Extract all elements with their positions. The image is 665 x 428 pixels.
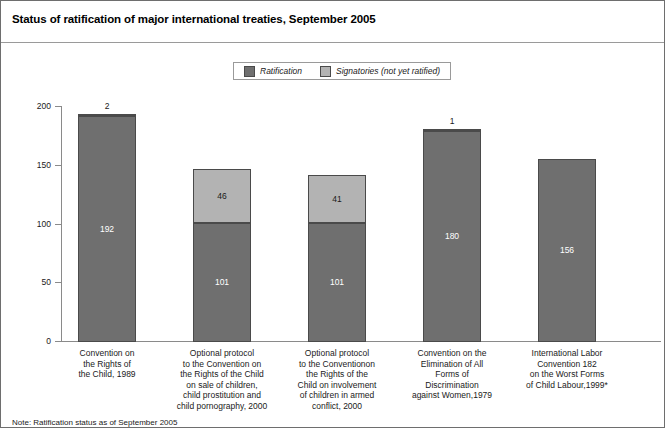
y-tick-label-50: 50 bbox=[19, 277, 51, 287]
bar-group[interactable]: 10146 bbox=[193, 169, 251, 342]
x-axis-label-line: child prostitution and bbox=[166, 390, 278, 401]
bar-segment-ratification[interactable]: 180 bbox=[423, 131, 481, 343]
x-axis-label-line: to the Convention on bbox=[166, 359, 278, 370]
bar-segment-ratification[interactable]: 101 bbox=[193, 223, 251, 342]
legend-item-ratification: Ratification bbox=[244, 66, 302, 77]
x-axis-label-line: the Rights of the bbox=[281, 369, 393, 380]
bar-value-ratification: 192 bbox=[100, 225, 114, 234]
bar-segment-signatories[interactable] bbox=[78, 114, 136, 116]
x-axis-label-line: Forms of bbox=[396, 369, 508, 380]
legend-swatch-signatories bbox=[320, 66, 331, 77]
legend-label-ratification: Ratification bbox=[260, 66, 302, 76]
plot-area: 192210146101411801156 bbox=[61, 106, 661, 342]
bar-value-signatories: 1 bbox=[423, 116, 481, 126]
x-axis-label-line: Convention on bbox=[51, 348, 163, 359]
bar-value-ratification: 180 bbox=[445, 232, 459, 241]
bar-value-ratification: 101 bbox=[330, 278, 344, 287]
y-tick-label-0: 0 bbox=[19, 336, 51, 346]
x-axis-label-line: of Child Labour,1999* bbox=[511, 380, 623, 391]
legend-item-signatories: Signatories (not yet ratified) bbox=[320, 66, 440, 77]
x-axis-label-line: the Rights of bbox=[51, 359, 163, 370]
y-tick-label-200: 200 bbox=[19, 101, 51, 111]
title-bar: Status of ratification of major internat… bbox=[1, 1, 664, 43]
x-axis-label-line: Optional protocol bbox=[166, 348, 278, 359]
legend-label-signatories: Signatories (not yet ratified) bbox=[336, 66, 440, 76]
x-axis-label-line: against Women,1979 bbox=[396, 390, 508, 401]
chart-legend: Ratification Signatories (not yet ratifi… bbox=[233, 62, 451, 80]
x-axis-label: Convention on theElimination of AllForms… bbox=[396, 348, 508, 401]
x-axis-label-line: the Rights of the Child bbox=[166, 369, 278, 380]
x-axis-label-line: International Labor bbox=[511, 348, 623, 359]
bar-value-signatories: 2 bbox=[78, 101, 136, 111]
bar-value-ratification: 156 bbox=[560, 246, 574, 255]
x-axis-label: Convention onthe Rights ofthe Child, 198… bbox=[51, 348, 163, 380]
bar-group[interactable]: 10141 bbox=[308, 175, 366, 342]
x-axis-label-line: of children in armed bbox=[281, 390, 393, 401]
bar-group[interactable]: 1801 bbox=[423, 129, 481, 342]
x-axis-label-line: to the Conventionon bbox=[281, 359, 393, 370]
x-axis-label-line: on sale of children, bbox=[166, 380, 278, 391]
bar-value-ratification: 101 bbox=[215, 278, 229, 287]
bar-segment-signatories[interactable]: 41 bbox=[308, 175, 366, 223]
legend-swatch-ratification bbox=[244, 66, 255, 77]
x-axis-label-line: child pornography, 2000 bbox=[166, 401, 278, 412]
page-title: Status of ratification of major internat… bbox=[12, 13, 376, 25]
x-axis-label: Optional protocolto the Convention onthe… bbox=[166, 348, 278, 411]
x-axis-label-line: Convention 182 bbox=[511, 359, 623, 370]
x-axis-label-line: conflict, 2000 bbox=[281, 401, 393, 412]
bar-segment-ratification[interactable]: 156 bbox=[538, 159, 596, 342]
bar-segment-ratification[interactable]: 192 bbox=[78, 116, 136, 342]
x-axis-label-line: Elimination of All bbox=[396, 359, 508, 370]
bar-value-signatories: 41 bbox=[332, 195, 341, 204]
y-tick-label-100: 100 bbox=[19, 219, 51, 229]
y-tick-label-150: 150 bbox=[19, 160, 51, 170]
bar-segment-ratification[interactable]: 101 bbox=[308, 223, 366, 342]
bar-segment-signatories[interactable] bbox=[423, 129, 481, 131]
footnote: Note: Ratification status as of Septembe… bbox=[12, 418, 177, 427]
x-axis-label-line: Child on involvement bbox=[281, 380, 393, 391]
bar-group[interactable]: 156 bbox=[538, 159, 596, 342]
chart-figure: Status of ratification of major internat… bbox=[0, 0, 665, 428]
bar-segment-signatories[interactable]: 46 bbox=[193, 169, 251, 223]
x-axis-label-line: on the Worst Forms bbox=[511, 369, 623, 380]
x-axis-label: International LaborConvention 182on the … bbox=[511, 348, 623, 390]
x-axis-label: Optional protocolto the Conventiononthe … bbox=[281, 348, 393, 411]
x-axis-label-line: Convention on the bbox=[396, 348, 508, 359]
x-axis-label-line: the Child, 1989 bbox=[51, 369, 163, 380]
bar-value-signatories: 46 bbox=[217, 192, 226, 201]
bar-group[interactable]: 1922 bbox=[78, 114, 136, 342]
x-axis-label-line: Optional protocol bbox=[281, 348, 393, 359]
x-axis-label-line: Discrimination bbox=[396, 380, 508, 391]
